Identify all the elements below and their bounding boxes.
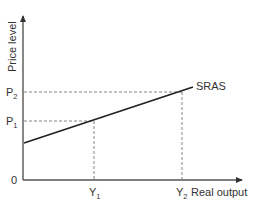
sras-label: SRAS	[196, 80, 226, 92]
y-axis-label: Price level	[6, 21, 18, 72]
sras-curve	[24, 87, 193, 143]
sras-diagram: Price level 0 P2 P1 Y1 Y2 Real output SR…	[0, 0, 254, 204]
p2-label: P2	[6, 86, 18, 101]
y2-label: Y2	[176, 186, 188, 201]
x-axis-label: Real output	[191, 186, 247, 198]
p1-label: P1	[6, 115, 18, 130]
y1-label: Y1	[89, 186, 101, 201]
origin-label: 0	[11, 174, 17, 186]
